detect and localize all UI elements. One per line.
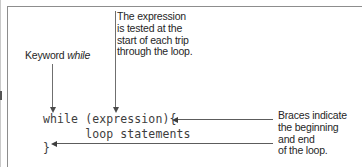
annotation-braces-line-3: and end [278, 133, 315, 145]
annotation-braces-line-1: Braces indicate [278, 109, 347, 121]
annotation-expression: The expressionis tested at thestart of e… [117, 11, 192, 58]
annotation-keyword-prefix: Keyword [25, 49, 67, 61]
annotation-keyword: Keyword while [25, 50, 90, 62]
while-loop-syntax-figure: Keyword while The expressionis tested at… [0, 0, 362, 167]
annotation-braces: Braces indicatethe beginningand endof th… [278, 110, 347, 157]
annotation-keyword-emphasis: while [67, 49, 90, 61]
arrow-keyword-to-while-icon [52, 64, 53, 108]
code-line-3: } [43, 141, 50, 155]
annotation-expression-line-3: start of each trip [117, 34, 189, 46]
arrow-expression-to-condition-icon [115, 11, 116, 108]
annotation-expression-line-2: is tested at the [117, 22, 182, 34]
arrow-braces-to-close-brace-icon [57, 143, 273, 144]
annotation-expression-line-1: The expression [117, 10, 186, 22]
code-sample: while (expression){ loop statements } [43, 112, 191, 156]
annotation-braces-line-4: of the loop. [278, 144, 328, 156]
annotation-expression-line-4: through the loop. [117, 45, 192, 57]
figure-top-rule [7, 6, 362, 7]
code-line-2: loop statements [43, 127, 191, 141]
annotation-braces-line-2: the beginning [278, 121, 338, 133]
outer-left-rule [0, 0, 1, 167]
arrow-braces-to-open-brace-icon [178, 119, 273, 120]
code-line-1: while (expression){ [43, 112, 176, 126]
left-edge-tick-mark [0, 91, 2, 100]
figure-left-rule [7, 6, 8, 167]
